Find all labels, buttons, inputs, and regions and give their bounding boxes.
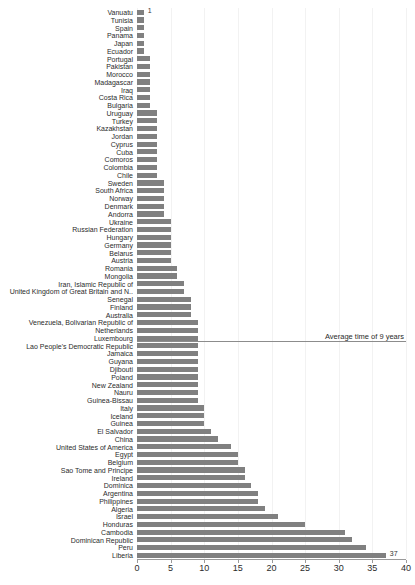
- bar: [137, 149, 157, 154]
- bar: [137, 537, 352, 542]
- bar: [137, 258, 171, 263]
- bar: [137, 211, 164, 216]
- bar: [137, 390, 198, 395]
- bar: [137, 312, 191, 317]
- average-line: [137, 341, 406, 342]
- bar: [137, 343, 198, 348]
- horizontal-bar-chart: VanuatuTunisiaSpainPanamaJapanEcuadorPor…: [0, 0, 415, 585]
- bar: [137, 421, 204, 426]
- bar: [137, 320, 198, 325]
- bar: [137, 553, 386, 558]
- bar: [137, 328, 198, 333]
- x-tick-label: 25: [300, 563, 310, 573]
- bar: [137, 545, 366, 550]
- bar: [137, 467, 245, 472]
- bar: [137, 398, 198, 403]
- bar: [137, 281, 184, 286]
- bar: [137, 165, 157, 170]
- category-label: Liberia: [112, 551, 133, 560]
- average-line-label: Average time of 9 years: [325, 332, 404, 341]
- category-axis-labels: VanuatuTunisiaSpainPanamaJapanEcuadorPor…: [0, 8, 133, 559]
- plot-area: 137Average time of 9 years: [137, 8, 406, 559]
- bar: [137, 436, 218, 441]
- x-tick-label: 5: [168, 563, 173, 573]
- bar: [137, 413, 204, 418]
- bar: [137, 514, 278, 519]
- bar: [137, 142, 157, 147]
- bar: [137, 359, 198, 364]
- bar: [137, 266, 177, 271]
- bar: [137, 48, 144, 53]
- bar: [137, 367, 198, 372]
- bar: [137, 491, 258, 496]
- bar: [137, 196, 164, 201]
- bar: [137, 180, 164, 185]
- bar: [137, 273, 177, 278]
- bar: [137, 204, 164, 209]
- bar: [137, 56, 150, 61]
- bar: [137, 188, 164, 193]
- bar: [137, 444, 231, 449]
- bar: [137, 95, 150, 100]
- bar: [137, 506, 265, 511]
- bar: [137, 219, 171, 224]
- x-tick-label: 35: [367, 563, 377, 573]
- bar: [137, 499, 258, 504]
- bar: [137, 126, 157, 131]
- bar: [137, 72, 150, 77]
- bar: [137, 10, 144, 15]
- bar: [137, 33, 144, 38]
- bar-value-label: 1: [144, 7, 152, 14]
- bar: [137, 134, 157, 139]
- bar: [137, 25, 144, 30]
- bar: [137, 452, 238, 457]
- bar: [137, 460, 238, 465]
- bar: [137, 382, 198, 387]
- bar: [137, 64, 150, 69]
- bar: [137, 483, 251, 488]
- bar: [137, 242, 171, 247]
- x-tick-label: 20: [266, 563, 276, 573]
- x-tick-label: 30: [334, 563, 344, 573]
- bar: [137, 429, 211, 434]
- bar: [137, 530, 345, 535]
- bar: [137, 41, 144, 46]
- bar: [137, 157, 157, 162]
- bar-value-label: 37: [386, 550, 398, 557]
- bar: [137, 304, 191, 309]
- bar: [137, 235, 171, 240]
- x-tick-label: 40: [401, 563, 411, 573]
- bar: [137, 351, 198, 356]
- bar: [137, 374, 198, 379]
- bar: [137, 17, 144, 22]
- x-tick-label: 0: [134, 563, 139, 573]
- bar: [137, 227, 171, 232]
- gridline: [406, 8, 407, 559]
- bar: [137, 405, 204, 410]
- x-tick-label: 15: [233, 563, 243, 573]
- bar: [137, 475, 245, 480]
- bar: [137, 79, 150, 84]
- bar: [137, 173, 157, 178]
- bar: [137, 87, 150, 92]
- bar: [137, 110, 157, 115]
- bar: [137, 118, 157, 123]
- bar: [137, 250, 171, 255]
- bar: [137, 297, 191, 302]
- bar: [137, 103, 150, 108]
- x-tick-label: 10: [199, 563, 209, 573]
- bar: [137, 289, 184, 294]
- bar: [137, 522, 305, 527]
